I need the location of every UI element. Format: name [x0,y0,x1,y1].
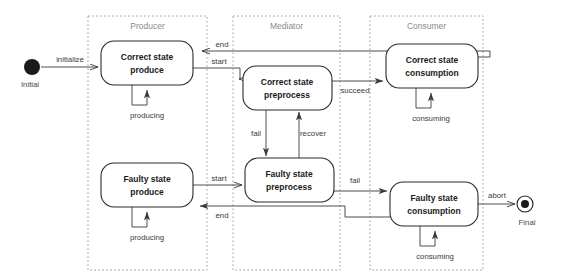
state-faulty-state-produce[interactable]: Faulty state produce [101,163,193,207]
state-faulty-state-produce-line2: produce [130,187,164,197]
state-faulty-state-preprocess[interactable]: Faulty state preprocess [245,158,334,202]
swimlane-consumer-title: Consumer [407,21,446,31]
self-transition-producing-correct-label: producing [130,111,164,120]
self-transition-consuming-faulty: consuming [416,226,454,261]
self-transition-producing-faulty-label: producing [130,233,164,242]
transition-fail-bottom-label: fail [350,176,360,185]
state-correct-state-consumption[interactable]: Correct state consumption [386,44,478,88]
state-initial-label: Initial [21,80,39,89]
self-transition-producing-faulty: producing [130,207,164,242]
transition-fail-bottom: fail [334,176,387,191]
state-faulty-state-preprocess-line2: preprocess [266,182,312,192]
transition-recover-label: recover [300,129,326,138]
transition-end-top-label: end [215,40,228,49]
transition-fail-vertical: fail [251,110,266,156]
swimlane-mediator: Mediator [233,16,340,270]
state-faulty-state-consumption-box [390,182,478,226]
state-correct-state-preprocess-box [243,66,332,110]
self-transition-consuming-faulty-line [420,226,435,246]
state-correct-state-consumption-line1: Correct state [406,55,459,65]
self-transition-consuming-correct-line [416,88,431,108]
transition-start-bottom-label: start [211,174,227,183]
transition-start-top: start [193,57,240,79]
transition-start-bottom: start [193,174,242,185]
state-faulty-state-produce-box [101,163,193,207]
transition-recover: recover [299,112,326,158]
initial-state-dot [24,59,40,75]
state-correct-state-preprocess[interactable]: Correct state preprocess [243,66,332,110]
state-correct-state-preprocess-line1: Correct state [261,77,314,87]
transition-succeed: succeed [332,81,383,95]
state-faulty-state-produce-line1: Faulty state [123,174,171,184]
state-correct-state-produce-line2: produce [130,65,164,75]
transition-end-bottom: end [200,206,390,220]
state-faulty-state-consumption-line2: consumption [407,206,460,216]
swimlane-mediator-border [233,16,340,270]
state-correct-state-produce-box [101,41,193,85]
state-diagram-canvas: Producer Mediator Consumer initialize en… [0,0,564,279]
transition-initialize-label: initialize [56,55,84,64]
self-transition-consuming-correct-label: consuming [412,114,450,123]
self-transition-consuming-faulty-label: consuming [416,252,454,261]
state-faulty-state-consumption[interactable]: Faulty state consumption [390,182,478,226]
transition-initialize: initialize [41,55,98,67]
transition-fail-vertical-label: fail [251,129,261,138]
state-correct-state-consumption-box [386,44,478,88]
self-transition-producing-correct-line [132,85,147,105]
swimlane-mediator-title: Mediator [270,21,303,31]
transition-abort-label: abort [488,191,507,200]
self-transition-consuming-correct: consuming [412,88,450,123]
state-correct-state-preprocess-line2: preprocess [264,90,310,100]
state-faulty-state-preprocess-line1: Faulty state [265,169,313,179]
transition-abort: abort [478,191,515,204]
state-correct-state-produce-line1: Correct state [121,52,174,62]
state-faulty-state-consumption-line1: Faulty state [410,193,458,203]
state-correct-state-produce[interactable]: Correct state produce [101,41,193,85]
state-final-label: Final [519,218,536,227]
final-state-dot [521,200,529,208]
state-final[interactable]: Final [517,196,536,227]
transition-start-top-label: start [211,57,227,66]
state-diagram: Producer Mediator Consumer initialize en… [0,0,564,279]
state-faulty-state-preprocess-box [245,158,334,202]
transition-succeed-label: succeed [340,86,369,95]
state-correct-state-consumption-line2: consumption [405,68,458,78]
state-initial[interactable]: Initial [21,59,40,89]
transition-end-bottom-label: end [215,211,228,220]
swimlane-producer-title: Producer [130,21,165,31]
self-transition-producing-faulty-line [132,207,147,227]
self-transition-producing-correct: producing [130,85,164,120]
